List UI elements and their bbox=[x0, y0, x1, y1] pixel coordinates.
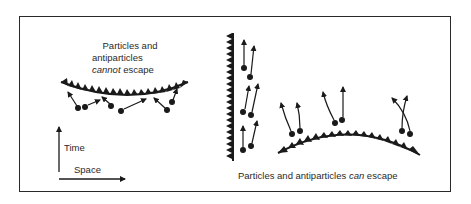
vertical-horizon bbox=[226, 33, 234, 161]
diagram-drawing bbox=[0, 0, 471, 204]
left-horizon-teeth-icon bbox=[61, 78, 188, 95]
escaping-particles bbox=[281, 87, 412, 136]
wall-particles bbox=[241, 40, 258, 152]
